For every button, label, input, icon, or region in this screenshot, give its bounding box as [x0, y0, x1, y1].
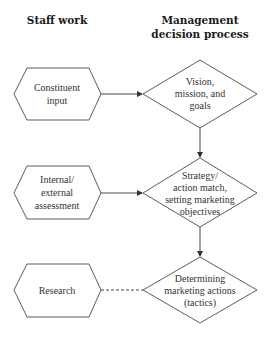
node-text: Vision, [186, 76, 215, 87]
diagram-canvas: Staff work Management decision process C… [0, 0, 270, 338]
hexagon-research: Research [14, 264, 101, 317]
node-text: input [47, 95, 68, 106]
diamond-vision-mission-goals: Vision, mission, and goals [143, 60, 257, 128]
header-management-line2: decision process [151, 28, 248, 40]
header-management-line1: Management [161, 14, 238, 26]
node-text: assessment [35, 200, 80, 211]
diamond-determining-marketing-actions: Determining marketing actions (tactics) [143, 257, 257, 323]
node-text: setting marketing [165, 194, 235, 205]
node-text: Constituent [34, 82, 80, 93]
node-text: external [41, 187, 73, 198]
node-text: goals [189, 100, 210, 111]
node-text: objectives [180, 206, 221, 217]
hexagon-constituent-input: Constituent input [14, 68, 101, 120]
node-text: Determining [175, 273, 226, 284]
node-text: Strategy/ [182, 170, 218, 181]
node-text: Internal/ [40, 174, 74, 185]
node-text: Research [39, 285, 76, 296]
node-text: (tactics) [184, 297, 216, 309]
header-staff-work: Staff work [27, 14, 88, 26]
hexagon-internal-external-assessment: Internal/ external assessment [14, 166, 101, 219]
node-text: mission, and [175, 88, 226, 99]
node-text: action match, [173, 182, 227, 193]
node-text: marketing actions [164, 285, 235, 296]
diamond-strategy-action-match: Strategy/ action match, setting marketin… [143, 158, 257, 227]
